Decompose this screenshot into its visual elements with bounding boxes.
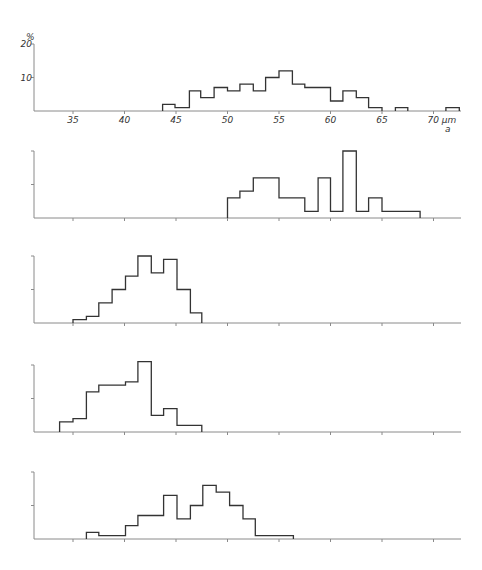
histogram-panel-3	[31, 256, 461, 326]
histogram-panel-4	[31, 362, 461, 435]
histogram-panel-1: 20103540455055606570 µm	[21, 39, 461, 125]
histogram-bars	[73, 256, 202, 323]
histogram-panel-5	[31, 472, 461, 542]
histogram-bars	[228, 151, 421, 218]
x-tick-label: 50	[222, 115, 234, 125]
x-tick-label: 55	[273, 115, 285, 125]
x-tick-label: 60	[325, 115, 337, 125]
x-tick-label: 40	[119, 115, 131, 125]
histogram-bars	[86, 485, 293, 539]
y-unit-label: %	[26, 32, 35, 42]
x-tick-label: 45	[170, 115, 182, 125]
histogram-bars	[163, 71, 460, 111]
x-tick-label: 65	[376, 115, 388, 125]
y-tick-label: 10	[21, 73, 33, 83]
histogram-panel-2	[31, 151, 461, 221]
panel-label: a	[445, 124, 451, 134]
histogram-figure: 20103540455055606570 µm%a	[0, 0, 482, 570]
x-tick-label: 70 µm	[428, 115, 457, 125]
x-tick-label: 35	[67, 115, 79, 125]
histogram-bars	[60, 362, 202, 432]
